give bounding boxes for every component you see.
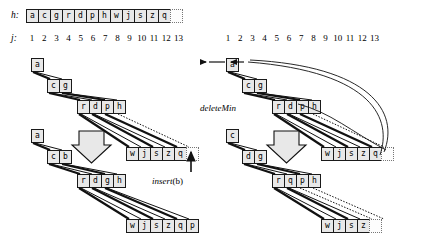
right-after-level-2: rqph <box>272 174 322 188</box>
heap-figure: h: acgrdphwjszq j: 12345678910111213 123… <box>0 0 423 248</box>
right-before-3-empty-cell <box>381 147 394 161</box>
left-before-level-1: cg <box>47 79 73 93</box>
left-index: 4 <box>63 33 75 43</box>
right-index: 1 <box>222 33 234 43</box>
left-transition-arrow <box>72 131 111 163</box>
left-before-level-3: wjszq <box>126 147 200 161</box>
left-before-3-empty-cell <box>186 147 199 161</box>
left-index: 5 <box>75 33 87 43</box>
right-index: 11 <box>344 33 356 43</box>
left-index: 3 <box>50 33 62 43</box>
left-index: 8 <box>111 33 123 43</box>
right-index: 9 <box>320 33 332 43</box>
deletemin-operation-label: deleteMin <box>200 103 236 113</box>
right-after-level-3: wjsz <box>321 219 383 233</box>
right-before-level-2: rdph <box>272 100 322 114</box>
left-index: 1 <box>26 33 38 43</box>
right-index: 12 <box>356 33 368 43</box>
right-index: 5 <box>271 33 283 43</box>
left-after-level-3: wjszqp <box>126 219 200 233</box>
right-before-1-cell: g <box>254 79 267 93</box>
heap-array-empty-cell <box>170 9 183 23</box>
left-index: 12 <box>160 33 172 43</box>
heap-array-row: acgrdphwjszq <box>26 9 184 23</box>
left-before-0-cell: a <box>31 58 44 72</box>
left-index: 7 <box>99 33 111 43</box>
right-index: 7 <box>295 33 307 43</box>
right-after-1-cell: g <box>254 150 267 164</box>
index-label-j: j: <box>11 33 17 43</box>
left-index: 2 <box>38 33 50 43</box>
insert-operation-label: insert(b) <box>152 176 183 186</box>
right-before-0-cell: a <box>226 58 239 72</box>
left-after-level-1: cb <box>47 150 73 164</box>
right-after-level-0: c <box>226 129 240 143</box>
left-after-3-cell: p <box>186 219 199 233</box>
left-before-2-cell: h <box>113 100 126 114</box>
left-index: 10 <box>136 33 148 43</box>
right-after-2-cell: h <box>308 174 321 188</box>
left-after-level-0: a <box>31 129 45 143</box>
right-before-level-1: cg <box>242 79 268 93</box>
left-after-1-cell: b <box>59 150 72 164</box>
left-before-1-cell: g <box>59 79 72 93</box>
left-before-level-0: a <box>31 58 45 72</box>
right-after-0-cell: c <box>226 129 239 143</box>
right-index: 6 <box>283 33 295 43</box>
left-after-2-cell: h <box>113 174 126 188</box>
right-index: 10 <box>332 33 344 43</box>
right-before-level-0: a <box>226 58 240 72</box>
right-index: 13 <box>368 33 380 43</box>
insert-label-text: insert <box>152 176 173 186</box>
left-index: 11 <box>148 33 160 43</box>
right-index: 2 <box>234 33 246 43</box>
left-after-level-2: rdgh <box>77 174 127 188</box>
right-transition-arrow <box>267 131 306 163</box>
right-index: 8 <box>307 33 319 43</box>
right-before-level-3: wjszq <box>321 147 395 161</box>
left-index: 9 <box>124 33 136 43</box>
right-index: 4 <box>259 33 271 43</box>
right-index: 3 <box>246 33 258 43</box>
insert-label-arg: (b) <box>173 176 184 186</box>
right-after-level-1: dg <box>242 150 268 164</box>
left-before-level-2: rdph <box>77 100 127 114</box>
left-after-0-cell: a <box>31 129 44 143</box>
array-label-h: h: <box>11 10 19 20</box>
right-after-3-empty-cell <box>369 219 382 233</box>
left-index: 6 <box>87 33 99 43</box>
left-index: 13 <box>172 33 184 43</box>
right-before-2-cell: h <box>308 100 321 114</box>
